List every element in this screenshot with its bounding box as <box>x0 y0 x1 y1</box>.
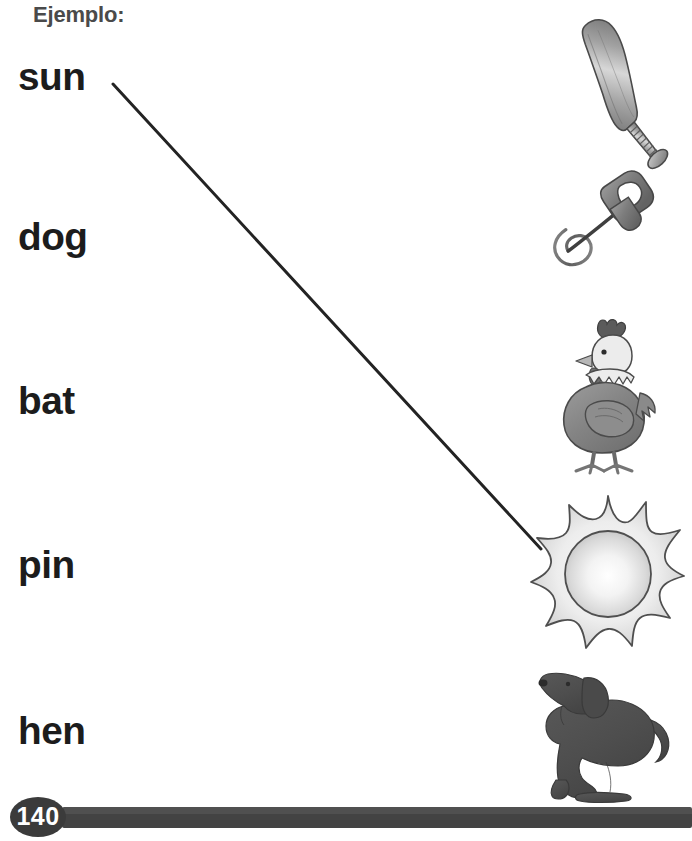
footer-bar <box>62 807 692 828</box>
sun-icon <box>528 492 688 652</box>
page-number-badge: 140 <box>10 797 66 837</box>
word-item-sun[interactable]: sun <box>18 58 85 96</box>
page-number-text: 140 <box>16 804 59 830</box>
example-label: Ejemplo: <box>33 0 124 30</box>
word-item-hen[interactable]: hen <box>18 712 85 750</box>
picture-item-sun[interactable] <box>528 492 688 652</box>
dog-icon <box>528 662 688 812</box>
word-item-dog[interactable]: dog <box>18 218 88 256</box>
safety-pin-icon <box>528 163 688 313</box>
baseball-bat-icon <box>528 10 688 160</box>
picture-item-hen[interactable] <box>528 313 688 473</box>
picture-item-dog[interactable] <box>528 662 688 812</box>
picture-item-safetypin[interactable] <box>528 163 688 313</box>
word-item-pin[interactable]: pin <box>18 546 75 584</box>
connector-line-sun[interactable] <box>113 84 541 549</box>
hen-icon <box>528 313 688 473</box>
picture-item-bat[interactable] <box>528 10 688 160</box>
worksheet-page: Ejemplo: sun dog bat pin hen <box>0 0 692 841</box>
word-item-bat[interactable]: bat <box>18 382 75 420</box>
